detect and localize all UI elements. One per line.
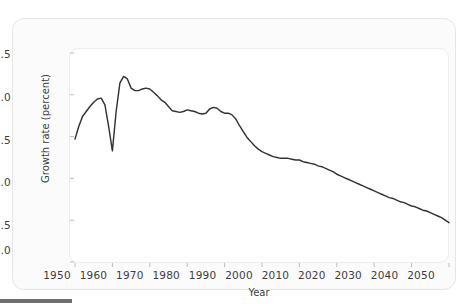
growth-rate-line [75, 76, 449, 222]
x-tick-label: 2050 [398, 269, 444, 281]
y-tick-label: 0.0 [0, 244, 11, 256]
y-tick-label: 2.0 [0, 91, 11, 103]
y-tick-label: 1.5 [0, 134, 11, 146]
chart-canvas [13, 19, 468, 304]
bottom-edge-bar [0, 299, 72, 303]
y-tick-label: 0.5 [0, 219, 11, 231]
y-tick-label: 2.5 [0, 48, 11, 60]
x-tick-marks [75, 263, 449, 267]
y-tick-label: 1.0 [0, 176, 11, 188]
y-tick-marks [70, 53, 74, 262]
figure-card: Growth rate (percent) Year 2.5 2.0 1.5 1… [12, 18, 456, 290]
